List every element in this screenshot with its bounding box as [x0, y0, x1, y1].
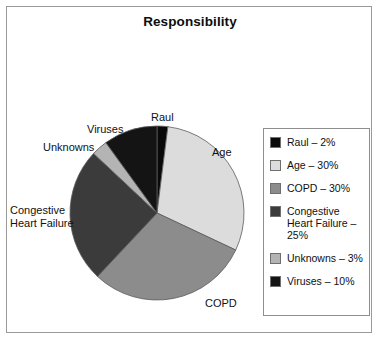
legend-item: Raul – 2% [270, 136, 365, 148]
pie-label-raul: Raul [151, 111, 174, 124]
pie-label-copd: COPD [205, 297, 237, 310]
legend-item: Viruses – 10% [270, 275, 365, 287]
legend-swatch-icon [270, 253, 281, 264]
pie-label-congestive-heart-failure: Congestive Heart Failure [10, 204, 74, 229]
legend-swatch-icon [270, 276, 281, 287]
legend-item-label: Raul – 2% [287, 136, 335, 148]
legend-item-label: Age – 30% [287, 159, 338, 171]
legend-swatch-icon [270, 160, 281, 171]
pie-label-age: Age [212, 146, 232, 159]
legend-item-label: Congestive Heart Failure – 25% [287, 205, 365, 241]
legend-item-list: Raul – 2%Age – 30%COPD – 30%Congestive H… [270, 136, 365, 287]
legend-item: Unknowns – 3% [270, 252, 365, 264]
pie-label-congestive-line2: Heart Failure [10, 217, 74, 229]
legend-swatch-icon [270, 137, 281, 148]
legend-item-label: Viruses – 10% [287, 275, 355, 287]
legend-item-label: Unknowns – 3% [287, 252, 363, 264]
legend-item-label: COPD – 30% [287, 182, 350, 194]
pie-label-unknowns: Unknowns [43, 141, 94, 154]
chart-legend: Raul – 2%Age – 30%COPD – 30%Congestive H… [263, 128, 370, 316]
pie-chart-figure: Responsibility Raul Viruses Unknowns Con… [0, 0, 380, 341]
legend-swatch-icon [270, 183, 281, 194]
pie-label-viruses: Viruses [87, 123, 123, 136]
legend-swatch-icon [270, 206, 281, 217]
legend-item: Congestive Heart Failure – 25% [270, 205, 365, 241]
pie-label-congestive-line1: Congestive [10, 204, 65, 216]
legend-item: Age – 30% [270, 159, 365, 171]
legend-item: COPD – 30% [270, 182, 365, 194]
